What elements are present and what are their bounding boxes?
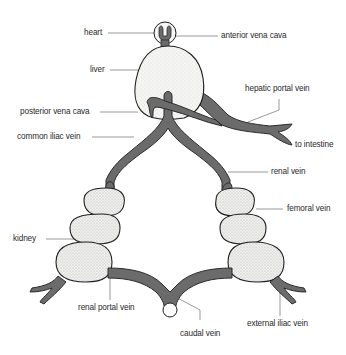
- label-hepatic-portal-vein: hepatic portal vein: [245, 85, 310, 93]
- label-external-iliac-vein: external iliac vein: [247, 320, 308, 328]
- venous-system-diagram: [0, 0, 346, 355]
- label-heart: heart: [84, 29, 102, 37]
- label-anterior-vena-cava: anterior vena cava: [221, 32, 287, 40]
- label-renal-portal-vein: renal portal vein: [78, 304, 135, 312]
- label-posterior-vena-cava: posterior vena cava: [20, 108, 90, 116]
- label-caudal-vein: caudal vein: [180, 330, 220, 338]
- caudal-vein-opening: [163, 303, 177, 317]
- label-to-intestine: to intestine: [295, 141, 333, 149]
- label-kidney: kidney: [13, 235, 36, 243]
- heart: [154, 22, 176, 47]
- label-femoral-vein: femoral vein: [287, 205, 330, 213]
- label-liver: liver: [90, 66, 105, 74]
- label-common-iliac-vein: common iliac vein: [17, 133, 80, 141]
- label-renal-vein: renal vein: [271, 168, 306, 176]
